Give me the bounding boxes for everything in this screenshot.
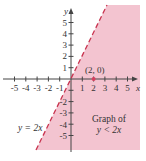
region-label-line1: Graph of: [92, 114, 127, 124]
svg-text:-5: -5: [60, 131, 68, 141]
svg-text:2: 2: [63, 51, 68, 61]
y-axis-arrow-icon: [69, 8, 74, 14]
svg-text:4: 4: [63, 29, 68, 39]
region-label-line2: y < 2x: [96, 125, 122, 135]
test-point: [92, 77, 96, 81]
shaded-region: [36, 5, 140, 150]
x-axis-label: x: [135, 83, 140, 93]
svg-text:-3: -3: [33, 83, 41, 93]
svg-text:1: 1: [80, 83, 85, 93]
svg-text:5: 5: [125, 83, 130, 93]
test-point-label: (2, 0): [85, 65, 105, 75]
svg-text:-3: -3: [60, 108, 68, 118]
inequality-graph: -5 -4 -3 -2 -1 1 2 3 4 5 5 4 3 2 1 -2 -3…: [0, 0, 146, 161]
svg-text:-4: -4: [22, 83, 30, 93]
svg-text:1: 1: [63, 63, 68, 73]
svg-text:-4: -4: [60, 120, 68, 130]
svg-text:4: 4: [114, 83, 119, 93]
svg-text:-2: -2: [60, 97, 68, 107]
line-equation-label: y = 2x: [17, 123, 43, 133]
svg-text:5: 5: [63, 18, 68, 28]
svg-text:3: 3: [103, 83, 108, 93]
svg-text:3: 3: [63, 40, 68, 50]
svg-text:-1: -1: [56, 83, 64, 93]
svg-text:2: 2: [91, 83, 96, 93]
y-axis-label: y: [63, 6, 68, 16]
svg-text:-2: -2: [45, 83, 53, 93]
svg-text:-5: -5: [11, 83, 19, 93]
